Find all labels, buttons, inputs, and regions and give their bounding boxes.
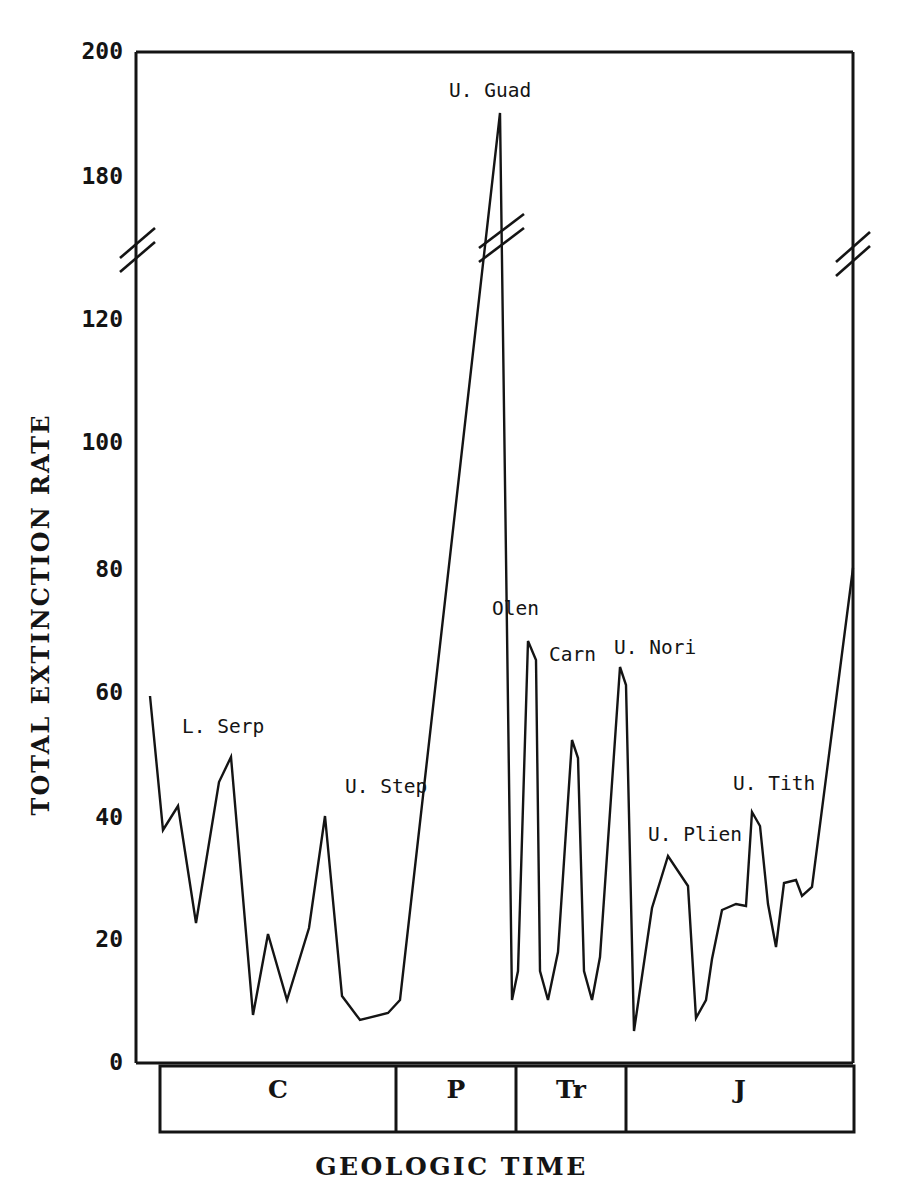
chart-canvas bbox=[0, 0, 903, 1193]
extinction-rate-line bbox=[150, 113, 853, 1031]
period-band-outer-box bbox=[160, 1066, 854, 1132]
period-band-boxes bbox=[160, 1066, 854, 1132]
extinction-rate-chart: 200 180 120 100 80 60 40 20 0 TOTAL EXTI… bbox=[0, 0, 903, 1193]
